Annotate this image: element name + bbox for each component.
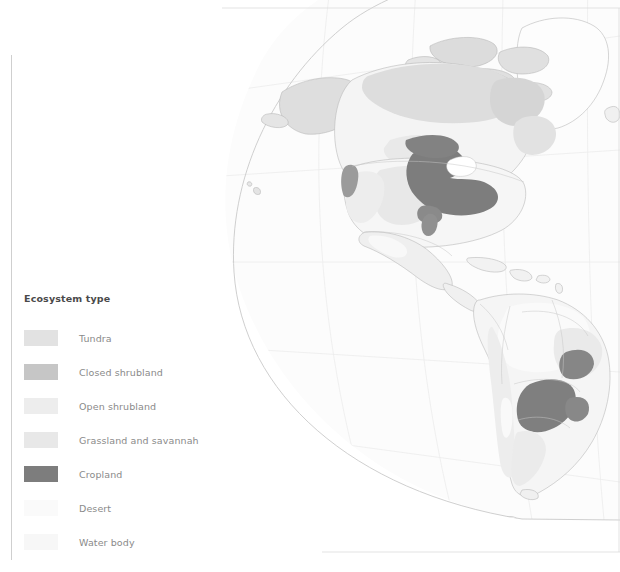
legend-swatch-cropland xyxy=(24,466,58,482)
legend-title: Ecosystem type xyxy=(24,293,224,304)
legend-item-open-shrubland[interactable]: Open shrubland xyxy=(24,389,224,423)
legend-swatch-closed-shrubland xyxy=(24,364,58,380)
legend-item-cropland[interactable]: Cropland xyxy=(24,457,224,491)
legend-swatch-tundra xyxy=(24,330,58,346)
feature-great-lakes xyxy=(447,157,477,177)
legend-swatch-open-shrubland xyxy=(24,398,58,414)
legend-swatch-desert xyxy=(24,500,58,516)
region-antarctic-peninsula xyxy=(492,517,518,534)
legend-label-closed-shrubland: Closed shrubland xyxy=(79,367,163,378)
region-antarctic-islands xyxy=(400,532,426,543)
region-antarctica xyxy=(262,525,620,560)
legend-item-tundra[interactable]: Tundra xyxy=(24,321,224,355)
legend-label-cropland: Cropland xyxy=(79,469,123,480)
legend-label-water-body: Water body xyxy=(79,537,135,548)
legend: Ecosystem type Tundra Closed shrubland O… xyxy=(24,293,224,559)
region-puerto-rico xyxy=(536,275,550,283)
ecosystem-map-figure: Ecosystem type Tundra Closed shrubland O… xyxy=(0,0,620,572)
map-panel[interactable] xyxy=(222,0,620,560)
region-arctic-islands-b xyxy=(498,47,549,74)
legend-item-grassland-and-savannah[interactable]: Grassland and savannah xyxy=(24,423,224,457)
legend-item-water-body[interactable]: Water body xyxy=(24,525,224,559)
world-map-svg xyxy=(222,0,620,560)
legend-swatch-grassland-and-savannah xyxy=(24,432,58,448)
legend-item-closed-shrubland[interactable]: Closed shrubland xyxy=(24,355,224,389)
legend-item-desert[interactable]: Desert xyxy=(24,491,224,525)
legend-label-grassland-and-savannah: Grassland and savannah xyxy=(79,435,199,446)
legend-label-tundra: Tundra xyxy=(79,333,112,344)
legend-label-open-shrubland: Open shrubland xyxy=(79,401,156,412)
region-lesser-antilles xyxy=(555,283,562,293)
legend-swatch-water-body xyxy=(24,534,58,550)
legend-label-desert: Desert xyxy=(79,503,111,514)
left-vertical-rule xyxy=(11,55,12,560)
region-hawaii-small xyxy=(247,182,252,186)
